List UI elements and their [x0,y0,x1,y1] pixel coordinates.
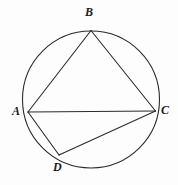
vertex-label-b: B [85,6,93,18]
vertex-label-a: A [12,105,20,117]
segment-bc [91,31,156,112]
segment-dc [59,111,156,155]
geometry-canvas [0,0,178,185]
segment-ac [28,111,156,112]
geometry-figure: A B C D [0,0,178,185]
vertex-label-d: D [53,161,62,173]
circumscribed-circle [23,31,160,168]
vertex-label-c: C [161,104,169,116]
segment-ab [28,31,91,113]
